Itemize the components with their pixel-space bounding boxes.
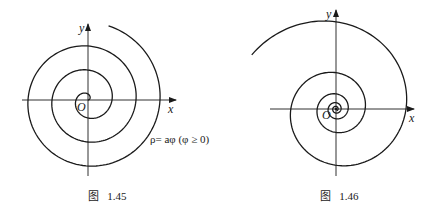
- y-axis-label: y: [79, 22, 84, 34]
- figure-caption: 图 1.46: [320, 191, 359, 202]
- x-axis-label: x: [409, 112, 414, 124]
- spiral-equation: ρ= aφ (φ ≥ 0): [150, 134, 209, 145]
- logarithmic-spiral-curve: [252, 21, 407, 166]
- spiral-center-dot: [335, 108, 338, 111]
- fig-1-45-axes: [22, 24, 176, 176]
- origin-label: O: [322, 109, 331, 121]
- archimedean-spiral-curve: [28, 26, 160, 166]
- x-axis-label: x: [168, 103, 173, 115]
- y-axis-label: y: [326, 8, 331, 20]
- fig-1-46-axes: [270, 10, 414, 176]
- diagram-canvas: [0, 0, 438, 213]
- origin-label: O: [77, 101, 86, 113]
- figure-caption: 图 1.45: [88, 191, 127, 202]
